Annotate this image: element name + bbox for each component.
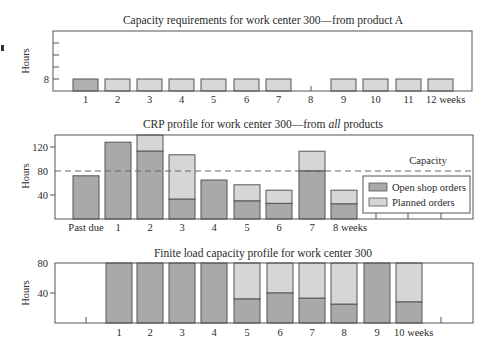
bar-open-shop [169,199,195,219]
x-tick-label: 1 [115,222,120,233]
x-tick-label: 4 [211,327,217,338]
x-tick-label: 7 [309,327,314,338]
stacked-bars [73,135,357,219]
bar-week-4 [169,79,194,91]
stacked-bars [106,263,422,323]
bar-open-shop [234,299,260,323]
chart-title: CRP profile for work center 300—from all… [143,118,384,131]
bar-planned [267,263,293,293]
x-tick-label: 3 [147,94,152,105]
bar-open-shop [266,203,292,219]
bar-open-shop [299,171,325,219]
bar-open-shop [73,176,99,219]
x-tick-label: 3 [179,222,184,233]
x-tick-labels: Past due12345678 weeks [68,222,367,233]
x-tick-label: 4 [211,222,217,233]
bar-open-shop [299,298,325,323]
capacity-label: Capacity [409,155,447,166]
bar-week-5 [201,79,226,91]
bar-week-2 [105,79,130,91]
y-axis-label: Hours [20,48,31,74]
chart-crp-profile: CRP profile for work center 300—from all… [20,118,473,233]
legend: Open shop orders Planned orders [363,176,470,219]
legend-label-planned: Planned orders [392,197,455,208]
x-tick-label: 1 [83,94,88,105]
bar-open-shop [331,304,357,323]
bar-open-shop [331,204,357,219]
bar-planned [299,151,325,171]
figure: Capacity requirements for work center 30… [0,0,495,359]
x-tick-labels: 12345678910 weeks [116,327,433,338]
bar-planned [331,263,357,304]
bar-planned [234,263,260,299]
y-ticks [53,43,59,79]
bar-open-shop [106,263,132,323]
x-tick-label: 12 weeks [426,94,465,105]
bar-week-3 [137,79,162,91]
x-tick-label: 5 [244,222,249,233]
bars [73,79,453,91]
x-tick-label: Past due [68,222,104,233]
x-tick-label: 10 [370,94,381,105]
x-tick-label: 11 [403,94,413,105]
figure-svg: Capacity requirements for work center 30… [0,0,495,359]
x-tick-label: 8 [341,327,346,338]
legend-swatch-open-shop [369,183,387,191]
x-tick-label: 6 [244,94,249,105]
bar-planned [266,190,292,203]
x-tick-label: 8 [308,94,313,105]
x-tick-label: 1 [116,327,121,338]
x-tick-label: 9 [374,327,379,338]
x-tick-label: 5 [244,327,249,338]
bar-week-7 [266,79,291,91]
legend-swatch-planned [369,198,387,206]
bar-open-shop [169,263,195,323]
bar-week-11 [396,79,421,91]
y-axis-label: Hours [20,163,31,189]
y-tick-80: 80 [38,258,49,269]
bar-open-shop [234,201,260,219]
chart-product-a: Capacity requirements for work center 30… [20,14,472,105]
page-edge-mark [1,45,4,51]
bar-open-shop [267,293,293,323]
legend-label-open-shop: Open shop orders [392,182,466,193]
x-tick-label: 2 [147,222,152,233]
x-tick-label: 5 [211,94,216,105]
y-tick-80: 80 [38,166,49,177]
bar-planned [299,263,325,298]
bar-planned [169,155,195,199]
bar-planned [234,185,260,201]
chart-title: Capacity requirements for work center 30… [123,14,404,27]
bar-open-shop [105,142,131,219]
chart-title: Finite load capacity profile for work ce… [154,247,372,260]
bar-open-shop [364,263,390,323]
x-tick-label: 10 weeks [394,327,433,338]
bar-open-shop [201,180,227,219]
x-tick-label: 3 [179,327,184,338]
x-tick-label: 8 weeks [333,222,367,233]
bar-week-6 [234,79,259,91]
x-tick-labels: 123456789101112 weeks [83,94,466,105]
x-tick-label: 7 [309,222,314,233]
y-ticks [50,147,55,195]
bar-open-shop [396,302,422,323]
bar-week-10 [363,79,388,91]
x-tick-label: 2 [147,327,152,338]
bar-week-9 [331,79,356,91]
bar-planned [396,263,422,302]
x-tick-label: 4 [179,94,185,105]
x-tick-label: 6 [276,222,281,233]
x-tick-label: 6 [277,327,282,338]
y-tick-40: 40 [38,288,49,299]
bar-planned [331,190,357,204]
bar-week-12 [428,79,453,91]
chart-finite-load: Finite load capacity profile for work ce… [20,247,473,338]
x-tick-label: 7 [276,94,281,105]
y-axis-label: Hours [20,280,31,306]
bar-open-shop [201,263,227,323]
x-tick-label: 9 [341,94,346,105]
bar-open-shop [137,151,163,219]
bar-open-shop [137,263,163,323]
y-tick-120: 120 [32,142,48,153]
x-tick-label: 2 [115,94,120,105]
